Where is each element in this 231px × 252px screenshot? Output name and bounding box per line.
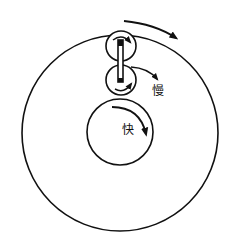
linking-bar [118,40,123,82]
fast-label: 快 [122,123,134,137]
linking-bar-pin-top [118,40,123,46]
slow-label: 慢 [152,84,164,98]
inner-wheel [87,99,153,165]
linking-bar-pin-bottom [118,78,123,82]
gear-train-diagram: 慢 快 [0,0,231,252]
